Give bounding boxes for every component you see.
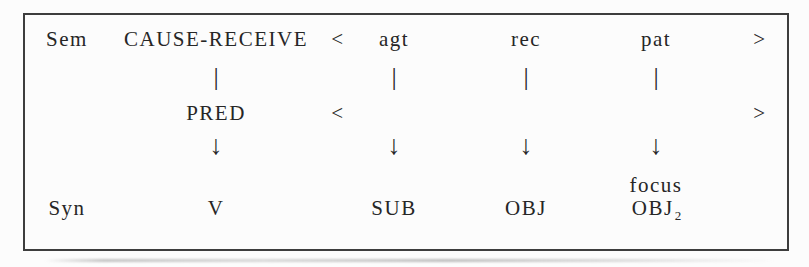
down-arrow-icon: ↓ xyxy=(649,132,663,159)
role-recipient: rec xyxy=(511,29,541,50)
function-second-object-subscript: 2 xyxy=(675,208,682,223)
focus-annotation: focus xyxy=(630,175,683,196)
link-bar-icon: | xyxy=(653,64,658,90)
close-angle-bracket-top: > xyxy=(753,29,766,50)
down-arrow-icon: ↓ xyxy=(387,132,401,159)
role-patient: pat xyxy=(641,29,671,50)
function-subject: SUB xyxy=(371,198,416,219)
scan-artifact xyxy=(45,259,775,262)
semantic-predicate: CAUSE-RECEIVE xyxy=(124,29,308,50)
link-bar-icon: | xyxy=(391,64,396,90)
figure-page: Sem CAUSE-RECEIVE < agt rec pat > | | | … xyxy=(0,0,809,267)
syntactic-category-verb: V xyxy=(208,198,225,219)
function-second-object-base: OBJ xyxy=(632,196,674,220)
pred-label: PRED xyxy=(186,103,246,124)
open-angle-bracket-top: < xyxy=(331,29,344,50)
link-bar-icon: | xyxy=(523,64,528,90)
function-second-object: OBJ2 xyxy=(632,198,680,221)
open-angle-bracket-mid: < xyxy=(331,103,344,124)
function-object: OBJ xyxy=(505,198,547,219)
syn-row-label: Syn xyxy=(48,198,85,219)
down-arrow-icon: ↓ xyxy=(519,132,533,159)
link-bar-icon: | xyxy=(213,64,218,90)
sem-row-label: Sem xyxy=(46,29,88,50)
down-arrow-icon: ↓ xyxy=(209,132,223,159)
role-agent: agt xyxy=(379,29,409,50)
close-angle-bracket-mid: > xyxy=(753,103,766,124)
